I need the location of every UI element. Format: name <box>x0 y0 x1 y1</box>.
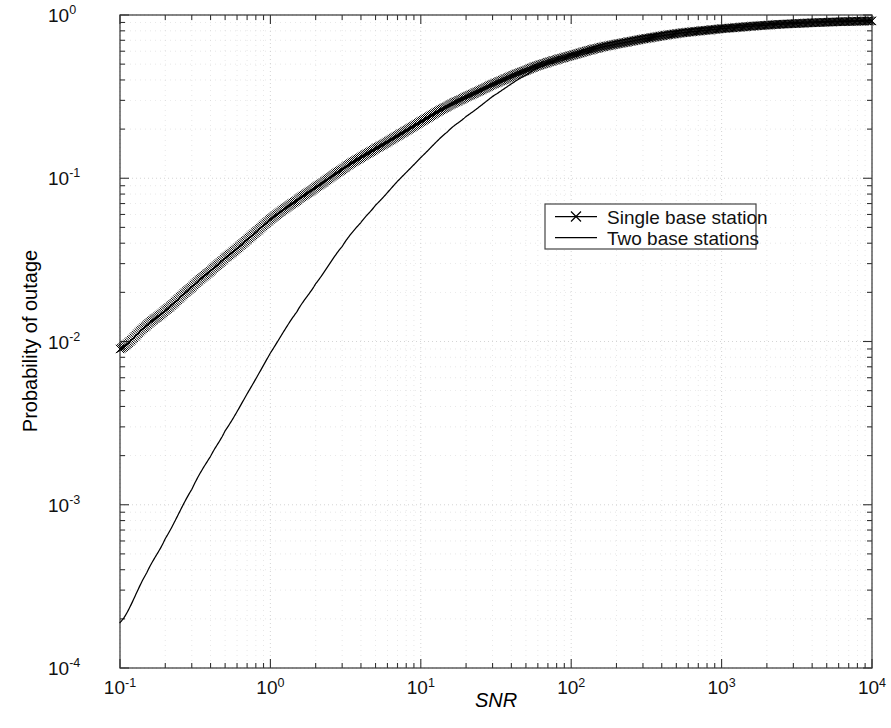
data-series-layer <box>116 17 876 623</box>
y-tick-label: 10-1 <box>48 169 80 188</box>
x-tick-label: 102 <box>557 678 585 697</box>
legend-box[interactable]: Single base stationTwo base stations <box>545 204 768 249</box>
y-tick-label: 10-2 <box>48 332 80 351</box>
chart-plot-area: Single base stationTwo base stations <box>0 0 891 728</box>
y-tick-label: 10-4 <box>48 659 80 678</box>
x-tick-label: 101 <box>407 678 435 697</box>
x-tick-label: 10-1 <box>104 678 136 697</box>
y-tick-label: 100 <box>48 6 76 25</box>
x-tick-label: 103 <box>708 678 736 697</box>
grid-lines <box>120 15 872 668</box>
x-tick-label: 100 <box>256 678 284 697</box>
legend-label: Two base stations <box>607 228 759 249</box>
x-axis-label: SNR <box>475 689 517 712</box>
legend-label: Single base station <box>607 207 768 228</box>
x-tick-label: 104 <box>858 678 886 697</box>
series-two-base-stations <box>120 20 872 622</box>
series-markers <box>116 17 876 353</box>
y-tick-label: 10-3 <box>48 495 80 514</box>
series-single-base-station <box>116 17 876 353</box>
figure-canvas: Single base stationTwo base stations 10-… <box>0 0 891 728</box>
y-axis-label: Probability of outage <box>19 250 42 432</box>
